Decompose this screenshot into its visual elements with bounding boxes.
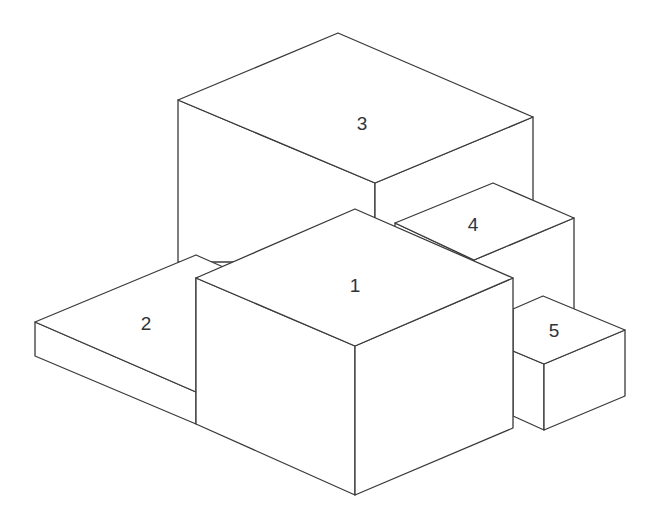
box-1-label: 1: [350, 275, 361, 296]
box-3-label: 3: [357, 113, 368, 134]
box-4-label: 4: [468, 214, 479, 235]
box-5: [513, 296, 625, 430]
box-5-label: 5: [549, 320, 560, 341]
box-2-label: 2: [141, 313, 152, 334]
box-5-left-face: [513, 351, 544, 430]
isometric-boxes-diagram: 1 2 3 4 5: [0, 0, 655, 515]
